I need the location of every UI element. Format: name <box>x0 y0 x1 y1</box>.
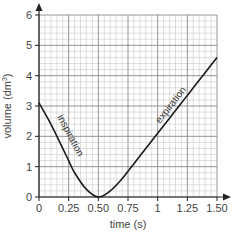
x-tick-label: 0.25 <box>58 202 79 214</box>
x-tick-label: 1.50 <box>206 202 227 214</box>
y-axis-label: volume (dm3) <box>1 73 13 138</box>
y-tick-label: 3 <box>26 100 32 112</box>
x-tick-label: 0.50 <box>88 202 109 214</box>
major-grid <box>39 15 217 197</box>
tick-labels: 00.250.500.7511.251.500123456 <box>26 9 228 214</box>
x-tick-label: 0.75 <box>117 202 138 214</box>
y-tick-label: 6 <box>26 9 32 21</box>
y-tick-label: 1 <box>26 161 32 173</box>
y-tick-label: 2 <box>26 130 32 142</box>
x-tick-label: 0 <box>36 202 42 214</box>
expiration-annotation: expiration <box>153 84 188 125</box>
lung-volume-chart: 00.250.500.7511.251.500123456 time (s) v… <box>0 0 235 234</box>
x-tick-label: 1.25 <box>177 202 198 214</box>
axes <box>36 3 232 201</box>
x-axis-arrow-icon <box>223 194 231 201</box>
x-axis-label: time (s) <box>110 218 147 230</box>
y-axis-arrow-icon <box>36 3 43 11</box>
y-tick-label: 0 <box>26 191 32 203</box>
y-tick-label: 5 <box>26 39 32 51</box>
inspiration-annotation: inspiration <box>55 113 86 158</box>
x-tick-label: 1 <box>155 202 161 214</box>
y-tick-label: 4 <box>26 70 32 82</box>
